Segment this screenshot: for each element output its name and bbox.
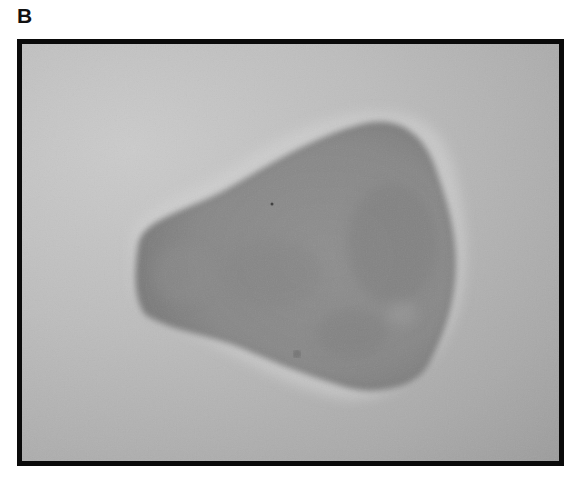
micrograph-frame: [17, 39, 564, 466]
panel-label: B: [17, 4, 32, 28]
cell-micrograph: [22, 44, 559, 461]
